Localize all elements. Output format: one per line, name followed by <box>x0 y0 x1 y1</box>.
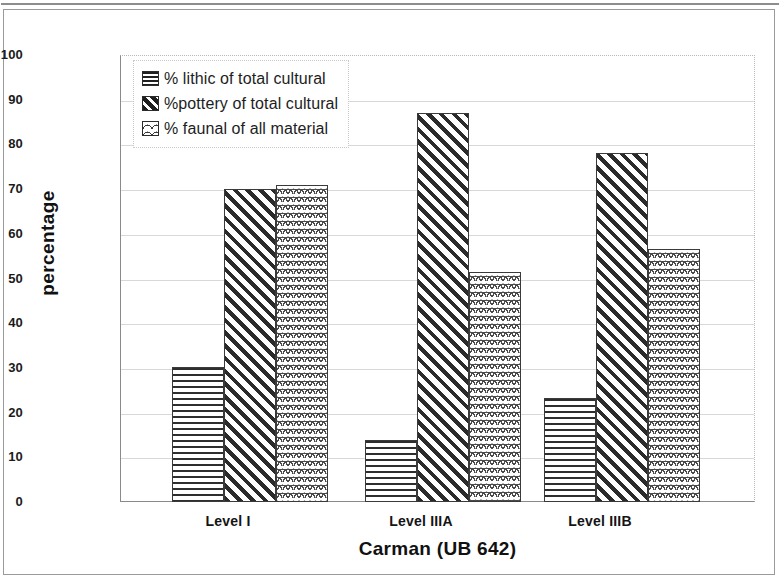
y-tick-40: 40 <box>0 315 23 330</box>
bar-chart: 100 90 80 70 60 50 40 30 20 10 0 percent… <box>0 0 784 580</box>
x-tick-level-i: Level I <box>118 513 338 529</box>
y-tick-60: 60 <box>0 226 23 241</box>
bar-level-iiia-faunal[interactable] <box>469 272 521 502</box>
y-tick-20: 20 <box>0 405 23 420</box>
bar-level-iiib-lithic[interactable] <box>544 398 596 502</box>
bar-group-level-iiib <box>544 55 756 502</box>
y-tick-90: 90 <box>0 92 23 107</box>
y-axis-title: percentage <box>37 143 59 343</box>
y-tick-70: 70 <box>0 181 23 196</box>
y-tick-10: 10 <box>0 449 23 464</box>
x-tick-level-iiib: Level IIIB <box>490 513 710 529</box>
legend-item-lithic[interactable]: % lithic of total cultural <box>142 66 338 91</box>
legend-label-pottery: %pottery of total cultural <box>164 95 338 113</box>
bar-level-iiib-pottery[interactable] <box>596 153 648 502</box>
y-tick-0: 0 <box>0 494 23 509</box>
y-tick-50: 50 <box>0 271 23 286</box>
y-tick-100: 100 <box>0 47 23 62</box>
legend-swatch-pottery-icon <box>142 96 159 111</box>
y-tick-30: 30 <box>0 360 23 375</box>
bar-level-iiia-lithic[interactable] <box>365 440 417 502</box>
bar-level-i-lithic[interactable] <box>172 367 224 502</box>
bar-level-i-pottery[interactable] <box>224 189 276 502</box>
legend-item-pottery[interactable]: %pottery of total cultural <box>142 91 338 116</box>
y-tick-80: 80 <box>0 136 23 151</box>
legend-swatch-lithic-icon <box>142 71 159 86</box>
bar-level-iiia-pottery[interactable] <box>417 113 469 502</box>
bar-level-iiib-faunal[interactable] <box>648 249 700 502</box>
chart-legend: % lithic of total cultural %pottery of t… <box>133 60 349 148</box>
legend-item-faunal[interactable]: % faunal of all material <box>142 116 338 141</box>
legend-label-faunal: % faunal of all material <box>164 120 328 138</box>
bar-level-i-faunal[interactable] <box>276 185 328 502</box>
x-axis-title: Carman (UB 642) <box>120 538 755 560</box>
legend-label-lithic: % lithic of total cultural <box>164 70 326 88</box>
legend-swatch-faunal-icon <box>142 121 159 136</box>
